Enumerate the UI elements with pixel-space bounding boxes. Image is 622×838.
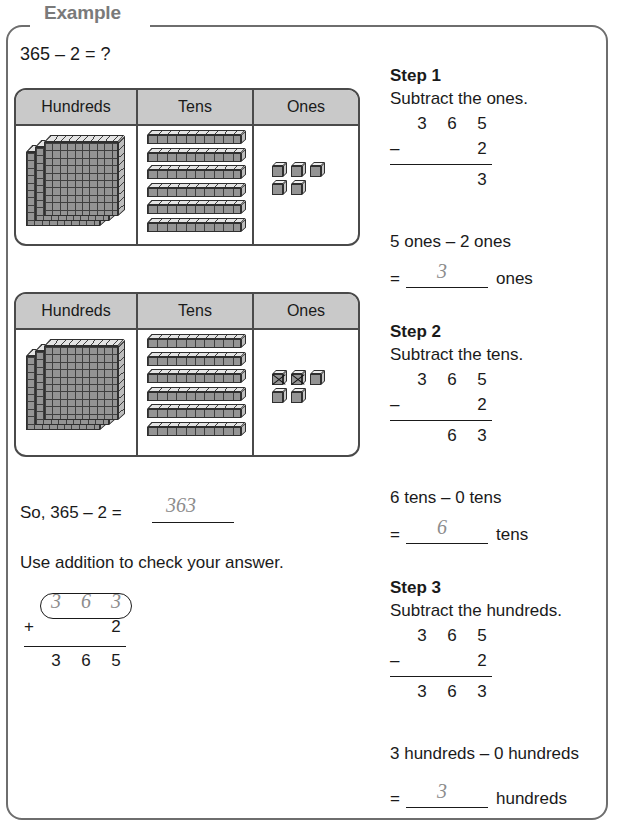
unit-cube-icon bbox=[310, 166, 321, 177]
step-3-blank[interactable] bbox=[406, 807, 488, 808]
ones-cube-group-icon bbox=[272, 166, 352, 202]
step-2-result-tens: 6 bbox=[444, 426, 460, 446]
problem-statement: 365 – 2 = ? bbox=[20, 44, 111, 64]
ten-rod-icon bbox=[147, 357, 241, 366]
check-addend-ones: 3 bbox=[108, 590, 124, 613]
ten-rod-icon bbox=[147, 339, 241, 348]
column-header-hundreds: Hundreds bbox=[16, 294, 138, 328]
step-3-unit: hundreds bbox=[496, 789, 567, 809]
step-1-sentence: 5 ones – 2 ones bbox=[390, 232, 511, 252]
check-sum-tens: 6 bbox=[78, 651, 94, 671]
step-3-equals: = bbox=[390, 789, 400, 809]
hundreds-flat-stack-icon bbox=[26, 342, 126, 438]
hundreds-flat-stack-icon bbox=[26, 138, 126, 234]
step-2-operator: – bbox=[390, 395, 399, 415]
ten-rod-icon bbox=[147, 223, 241, 232]
step-3-minuend-hundreds: 3 bbox=[414, 626, 430, 646]
hundred-flat-icon bbox=[44, 346, 118, 420]
ones-cube-row bbox=[272, 166, 352, 177]
step-1-minuend-ones: 5 bbox=[474, 114, 490, 134]
ones-cube-row bbox=[272, 184, 352, 195]
step-3-rule bbox=[390, 676, 492, 677]
ten-rod-icon bbox=[147, 205, 241, 214]
check-addend-tens: 6 bbox=[78, 590, 94, 613]
unit-cube-crossed-icon bbox=[291, 374, 302, 385]
step-2-blank[interactable] bbox=[406, 543, 488, 544]
column-header-tens: Tens bbox=[138, 90, 254, 124]
ten-rod-icon bbox=[147, 153, 241, 162]
tens-rod-group-icon bbox=[147, 135, 241, 240]
check-sum-ones: 5 bbox=[108, 651, 124, 671]
check-sum-hundreds: 3 bbox=[48, 651, 64, 671]
unit-cube-icon bbox=[291, 166, 302, 177]
table-body-row bbox=[16, 126, 358, 244]
table-body-row bbox=[16, 330, 358, 455]
ten-rod-icon bbox=[147, 392, 241, 401]
hundred-flat-icon bbox=[44, 142, 118, 216]
check-rule bbox=[24, 646, 126, 647]
ten-rod-icon bbox=[147, 409, 241, 418]
column-header-ones: Ones bbox=[254, 90, 358, 124]
tens-cell bbox=[138, 126, 254, 244]
ones-cube-row bbox=[272, 374, 352, 385]
check-addend-hundreds: 3 bbox=[48, 590, 64, 613]
step-2-value: 6 bbox=[437, 516, 447, 539]
ones-cube-row bbox=[272, 392, 352, 403]
unit-cube-icon bbox=[310, 374, 321, 385]
step-3-value: 3 bbox=[437, 780, 447, 803]
step-1-operator: – bbox=[390, 139, 399, 159]
step-1-subtrahend-ones: 2 bbox=[474, 139, 490, 159]
step-1-title: Step 1 bbox=[390, 66, 441, 86]
step-2-minuend-ones: 5 bbox=[474, 370, 490, 390]
step-3-title: Step 3 bbox=[390, 578, 441, 598]
step-3-minuend-ones: 5 bbox=[474, 626, 490, 646]
step-3-result-ones: 3 bbox=[474, 682, 490, 702]
unit-cube-icon bbox=[272, 166, 283, 177]
column-header-tens: Tens bbox=[138, 294, 254, 328]
ten-rod-icon bbox=[147, 427, 241, 436]
ten-rod-icon bbox=[147, 170, 241, 179]
step-2-rule bbox=[390, 420, 492, 421]
step-2-minuend-tens: 6 bbox=[444, 370, 460, 390]
step-2-result-ones: 3 bbox=[474, 426, 490, 446]
step-3-sentence: 3 hundreds – 0 hundreds bbox=[390, 744, 579, 764]
step-1-instruction: Subtract the ones. bbox=[390, 89, 528, 109]
example-label: Example bbox=[36, 2, 129, 24]
step-1-equals: = bbox=[390, 269, 400, 289]
column-header-ones: Ones bbox=[254, 294, 358, 328]
unit-cube-crossed-icon bbox=[272, 374, 283, 385]
step-3-result-hundreds: 3 bbox=[414, 682, 430, 702]
step-1-minuend-tens: 6 bbox=[444, 114, 460, 134]
ten-rod-icon bbox=[147, 374, 241, 383]
step-2-sentence: 6 tens – 0 tens bbox=[390, 488, 502, 508]
conclusion-prefix: So, 365 – 2 = bbox=[20, 503, 122, 523]
step-1-value: 3 bbox=[437, 260, 447, 283]
step-2-unit: tens bbox=[496, 525, 528, 545]
ones-cube-group-icon bbox=[272, 374, 352, 410]
step-3-minuend-tens: 6 bbox=[444, 626, 460, 646]
step-3-operator: – bbox=[390, 651, 399, 671]
column-header-hundreds: Hundreds bbox=[16, 90, 138, 124]
step-1-blank[interactable] bbox=[406, 287, 488, 288]
check-addend-bottom: 2 bbox=[108, 617, 124, 637]
place-value-table-after: Hundreds Tens Ones bbox=[14, 292, 360, 457]
table-header-row: Hundreds Tens Ones bbox=[16, 294, 358, 330]
tens-cell bbox=[138, 330, 254, 455]
step-3-result-tens: 6 bbox=[444, 682, 460, 702]
check-instruction: Use addition to check your answer. bbox=[20, 553, 284, 573]
conclusion-answer: 363 bbox=[166, 494, 196, 517]
place-value-table-before: Hundreds Tens Ones bbox=[14, 88, 360, 246]
unit-cube-icon bbox=[291, 392, 302, 403]
step-2-minuend-hundreds: 3 bbox=[414, 370, 430, 390]
ten-rod-icon bbox=[147, 135, 241, 144]
step-1-minuend-hundreds: 3 bbox=[414, 114, 430, 134]
conclusion-blank[interactable] bbox=[152, 522, 234, 523]
step-3-instruction: Subtract the hundreds. bbox=[390, 601, 562, 621]
unit-cube-icon bbox=[272, 392, 283, 403]
step-1-unit: ones bbox=[496, 269, 533, 289]
step-2-instruction: Subtract the tens. bbox=[390, 345, 523, 365]
step-1-rule bbox=[390, 164, 492, 165]
step-2-subtrahend-ones: 2 bbox=[474, 395, 490, 415]
ones-cell bbox=[254, 330, 358, 455]
tens-rod-group-icon bbox=[147, 339, 241, 444]
